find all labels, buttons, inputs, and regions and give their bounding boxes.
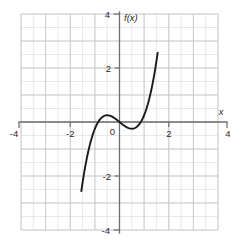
origin-label: 0 — [110, 126, 115, 137]
x-tick-label--2: -2 — [66, 128, 74, 139]
y-tick-label--2: -2 — [103, 171, 111, 182]
graph-canvas: -4 -2 2 4 4 2 0 -2 -4 f(x) x — [0, 0, 240, 247]
y-tick-label-4: 4 — [105, 9, 110, 20]
x-tick-label-4: 4 — [225, 128, 230, 139]
x-tick-label-2: 2 — [166, 128, 171, 139]
y-axis-label: f(x) — [124, 12, 138, 23]
y-tick-label--4: -4 — [102, 225, 110, 236]
x-tick-label--4: -4 — [10, 128, 18, 139]
y-tick-label-2: 2 — [106, 63, 111, 74]
cubic-function-graph-figure: -4 -2 2 4 4 2 0 -2 -4 f(x) x — [0, 0, 240, 247]
